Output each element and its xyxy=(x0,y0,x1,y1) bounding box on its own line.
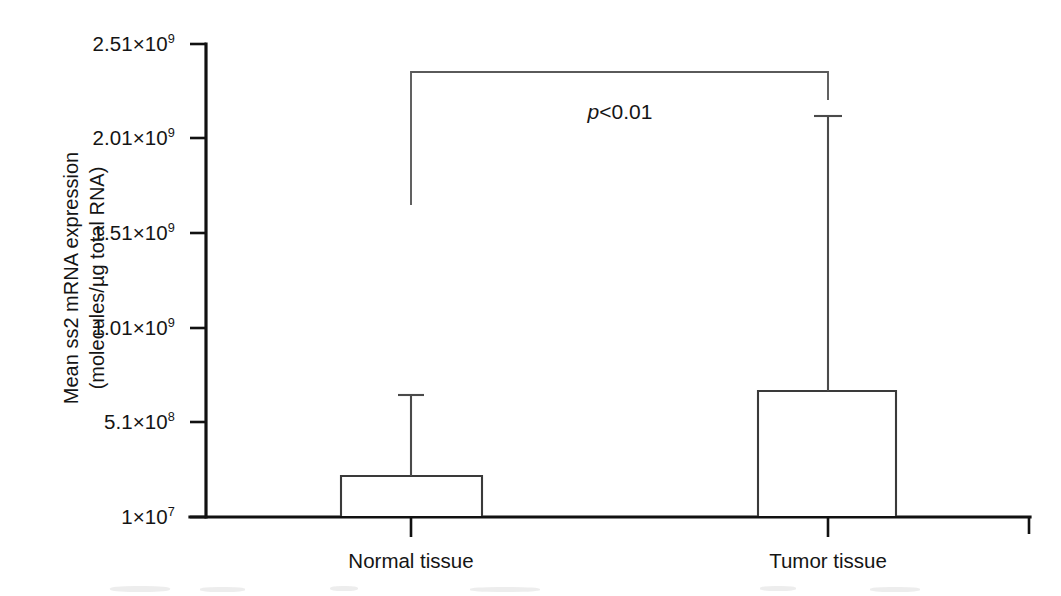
scan-artifact xyxy=(760,586,796,591)
significance-bracket xyxy=(411,72,828,205)
p-value-symbol: p xyxy=(588,100,600,123)
y-tick-label-5-1e8: 5.1×108 xyxy=(104,412,175,433)
bar-normal-tissue[interactable] xyxy=(341,476,482,516)
y-tick-label-2-51e9: 2.51×109 xyxy=(92,34,175,55)
x-label-normal-tissue: Normal tissue xyxy=(311,551,511,572)
scan-artifact xyxy=(470,587,540,592)
y-axis-title-line-2: (molecules/µg total RNA) xyxy=(84,108,110,448)
y-axis-title-line-1: Mean ss2 mRNA expression xyxy=(58,108,84,448)
scan-artifact xyxy=(330,586,358,591)
p-value-annotation: p<0.01 xyxy=(545,101,695,122)
scan-artifact xyxy=(200,587,245,592)
scan-artifact xyxy=(870,587,920,592)
x-label-tumor-tissue: Tumor tissue xyxy=(738,551,918,572)
y-tick-label-1e7: 1×107 xyxy=(121,507,175,528)
scan-artifact xyxy=(110,586,170,592)
y-axis-title: Mean ss2 mRNA expression (molecules/µg t… xyxy=(58,108,114,448)
figure-container: 2.51×109 2.01×109 1.51×109 1.01×109 5.1×… xyxy=(0,0,1061,596)
p-value-text: <0.01 xyxy=(599,100,652,123)
bar-tumor-tissue[interactable] xyxy=(758,391,896,516)
